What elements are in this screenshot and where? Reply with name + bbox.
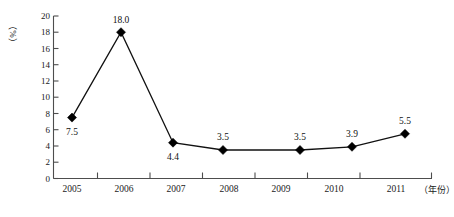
data-label-2005: 7.5 bbox=[66, 127, 78, 137]
y-tick-label-16: 16 bbox=[41, 44, 51, 54]
y-tick-label-10: 10 bbox=[41, 92, 51, 102]
x-tick-label-2009: 2009 bbox=[272, 184, 291, 194]
y-tick-label-12: 12 bbox=[41, 76, 50, 86]
y-tick-label-4: 4 bbox=[46, 141, 51, 151]
x-tick-label-2011: 2011 bbox=[387, 184, 406, 194]
y-tick-label-8: 8 bbox=[46, 109, 51, 119]
y-tick-label-0: 0 bbox=[46, 174, 51, 184]
x-tick-label-2008: 2008 bbox=[220, 184, 239, 194]
x-tick-label-2006: 2006 bbox=[115, 184, 134, 194]
line-chart-figure: 0 2 4 6 8 10 12 14 16 18 20 （%） 2005 200… bbox=[0, 0, 454, 217]
data-label-2007: 4.4 bbox=[167, 152, 179, 162]
y-tick-label-6: 6 bbox=[46, 125, 51, 135]
x-axis-caption: （年份） bbox=[419, 184, 454, 195]
data-label-2011: 5.5 bbox=[399, 116, 411, 126]
y-tick-label-20: 20 bbox=[41, 11, 51, 21]
y-tick-label-18: 18 bbox=[41, 27, 51, 37]
data-label-2008: 3.5 bbox=[217, 132, 229, 142]
x-tick-label-2005: 2005 bbox=[63, 184, 82, 194]
chart-canvas: 0 2 4 6 8 10 12 14 16 18 20 （%） 2005 200… bbox=[0, 0, 454, 217]
y-tick-label-2: 2 bbox=[46, 157, 51, 167]
data-label-2009: 3.5 bbox=[294, 132, 306, 142]
data-label-2006: 18.0 bbox=[113, 15, 130, 25]
data-label-2010: 3.9 bbox=[346, 129, 358, 139]
x-tick-label-2010: 2010 bbox=[325, 184, 344, 194]
y-tick-label-14: 14 bbox=[41, 60, 51, 70]
y-axis-caption: （%） bbox=[8, 21, 18, 47]
x-tick-label-2007: 2007 bbox=[167, 184, 186, 194]
